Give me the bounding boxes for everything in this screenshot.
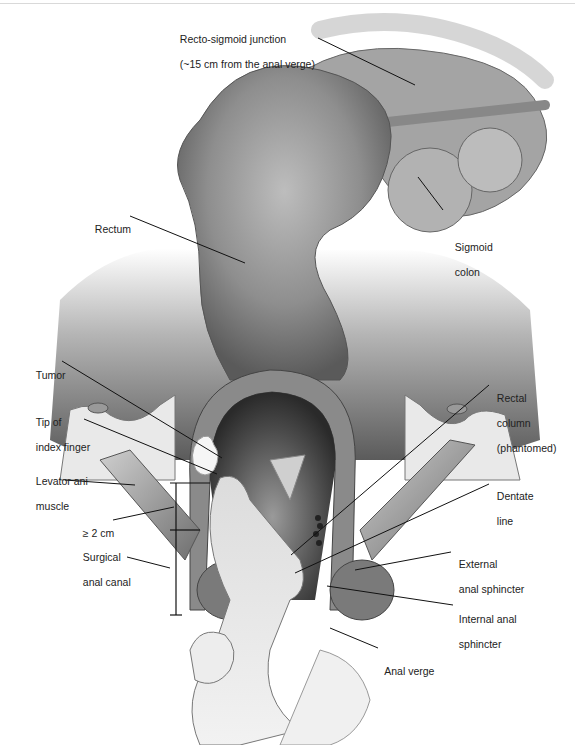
label-line: ≥ 2 cm bbox=[83, 527, 114, 539]
label-levator-ani-muscle: Levator ani muscle bbox=[30, 462, 88, 512]
label-dentate-line: Dentate line bbox=[491, 477, 534, 527]
label-line: External bbox=[459, 558, 498, 570]
label-line: index finger bbox=[36, 441, 90, 453]
label-line: Sigmoid bbox=[455, 241, 493, 253]
label-line: anal sphincter bbox=[459, 583, 524, 595]
label-line: (~15 cm from the anal verge) bbox=[180, 58, 315, 70]
label-line: line bbox=[497, 515, 513, 527]
label-line: Anal verge bbox=[384, 665, 434, 677]
label-line: colon bbox=[455, 266, 480, 278]
label-tumor: Tumor bbox=[30, 356, 66, 381]
label-line: Internal anal bbox=[459, 613, 517, 625]
label-rectal-column: Rectal column (phantomed) bbox=[491, 379, 556, 454]
label-rectosigmoid-junction: Recto-sigmoid junction (~15 cm from the … bbox=[174, 20, 315, 70]
label-line: Rectum bbox=[95, 223, 131, 235]
label-line: column bbox=[497, 417, 531, 429]
label-line: muscle bbox=[36, 500, 69, 512]
label-internal-anal-sphincter: Internal anal sphincter bbox=[453, 600, 517, 650]
label-line: Recto-sigmoid junction bbox=[180, 33, 286, 45]
label-tip-of-index-finger: Tip of index finger bbox=[30, 403, 90, 453]
label-line: sphincter bbox=[459, 638, 502, 650]
label-anal-verge: Anal verge bbox=[379, 652, 434, 677]
label-line: Tumor bbox=[36, 369, 66, 381]
label-external-anal-sphincter: External anal sphincter bbox=[453, 545, 524, 595]
label-line: Surgical bbox=[83, 551, 121, 563]
label-line: (phantomed) bbox=[497, 442, 557, 454]
label-line: Dentate bbox=[497, 490, 534, 502]
label-line: Levator ani bbox=[36, 475, 88, 487]
label-line: Rectal bbox=[497, 392, 527, 404]
label-distance-2cm: ≥ 2 cm bbox=[77, 514, 114, 539]
label-rectum: Rectum bbox=[89, 210, 131, 235]
label-sigmoid-colon: Sigmoid colon bbox=[449, 228, 493, 278]
label-surgical-anal-canal: Surgical anal canal bbox=[77, 538, 131, 588]
label-line: Tip of bbox=[36, 416, 62, 428]
label-line: anal canal bbox=[83, 576, 131, 588]
